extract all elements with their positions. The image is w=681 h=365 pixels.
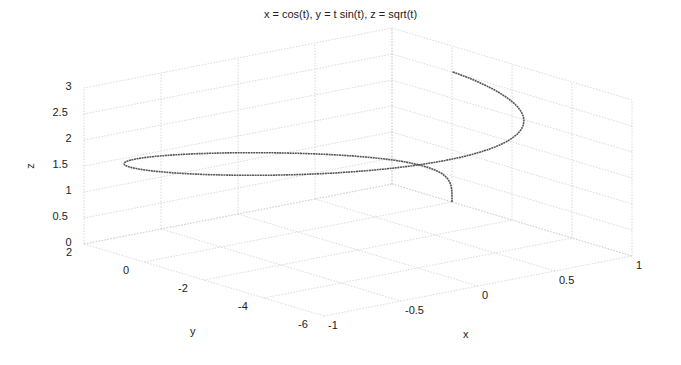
y-tick-label: 0 — [123, 264, 129, 276]
x-tick-label: 0 — [482, 289, 488, 301]
x-tick-label: 1 — [636, 259, 642, 271]
x-axis-label: x — [463, 328, 469, 340]
plot-area — [0, 0, 681, 365]
z-tick-label: 2.5 — [53, 106, 68, 118]
y-tick-label: 2 — [66, 246, 72, 258]
z-axis-label: z — [24, 163, 36, 169]
x-tick-label: -0.5 — [405, 304, 424, 316]
x-tick-label: -1 — [328, 319, 338, 331]
z-tick-label: 1.5 — [53, 158, 68, 170]
z-tick-label: 2 — [66, 132, 72, 144]
data-curve — [124, 72, 524, 202]
y-tick-label: -6 — [298, 318, 308, 330]
x-tick-label: 0.5 — [559, 274, 574, 286]
y-tick-label: -2 — [178, 282, 188, 294]
z-tick-label: 3 — [66, 80, 72, 92]
y-tick-label: -4 — [238, 300, 248, 312]
figure: x = cos(t), y = t sin(t), z = sqrt(t) 00… — [0, 0, 681, 365]
z-tick-label: 0.5 — [53, 210, 68, 222]
y-axis-label: y — [190, 325, 196, 337]
z-tick-label: 1 — [66, 184, 72, 196]
